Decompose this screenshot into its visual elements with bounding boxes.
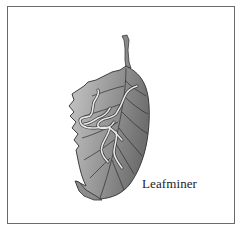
leaf-stem-icon (122, 35, 131, 68)
figure-caption: Leafminer (142, 176, 197, 192)
leaf-illustration (0, 0, 240, 229)
